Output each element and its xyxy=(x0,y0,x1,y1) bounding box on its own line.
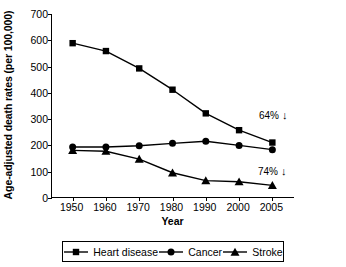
line-chart: Age-adjusted death rates (per 100,000) 0… xyxy=(0,0,346,267)
series-heart-disease xyxy=(69,40,275,146)
y-tick-mark xyxy=(48,67,52,68)
arrow-down-icon: ↓ xyxy=(279,109,288,121)
legend-label: Cancer xyxy=(186,246,222,258)
circle-marker-icon xyxy=(169,140,176,147)
y-tick-label: 400 xyxy=(14,88,48,98)
y-tick-label: 200 xyxy=(14,140,48,150)
legend-entry-stroke[interactable]: Stroke xyxy=(222,246,282,258)
y-tick-mark xyxy=(48,172,52,173)
legend-entry-heart-disease[interactable]: Heart disease xyxy=(63,246,158,258)
y-tick-mark xyxy=(48,198,52,199)
circle-marker-icon xyxy=(236,142,243,149)
arrow-down-icon: ↓ xyxy=(278,165,287,177)
square-marker-icon xyxy=(63,246,89,258)
square-marker-icon xyxy=(73,248,79,254)
triangle-marker-icon xyxy=(168,168,177,176)
y-tick-mark xyxy=(48,40,52,41)
y-tick-label: 100 xyxy=(14,167,48,177)
series-line xyxy=(73,150,273,185)
legend-label: Stroke xyxy=(250,246,282,258)
y-axis-tick-labels: 0100200300400500600700 xyxy=(14,14,48,198)
circle-marker-icon xyxy=(158,246,184,258)
legend-label: Heart disease xyxy=(91,246,158,258)
x-tick-label: 2005 xyxy=(251,201,291,213)
y-tick-label: 500 xyxy=(14,62,48,72)
square-marker-icon xyxy=(203,110,209,116)
y-tick-label: 700 xyxy=(14,9,48,19)
y-tick-mark xyxy=(48,14,52,15)
y-tick-label: 300 xyxy=(14,114,48,124)
legend-entry-cancer[interactable]: Cancer xyxy=(158,246,222,258)
y-axis-title-text: Age-adjusted death rates (per 100,000) xyxy=(2,11,14,200)
chart-legend: Heart diseaseCancerStroke xyxy=(62,241,284,262)
y-tick-mark xyxy=(48,145,52,146)
square-marker-icon xyxy=(236,127,242,133)
y-tick-label: 600 xyxy=(14,35,48,45)
circle-marker-icon xyxy=(202,138,209,145)
square-marker-icon xyxy=(169,87,175,93)
annotation-text: 64% xyxy=(259,110,279,121)
circle-marker-icon xyxy=(269,146,276,153)
annotation-text: 74% xyxy=(258,166,278,177)
x-axis-title: Year xyxy=(51,215,294,227)
triangle-marker-icon xyxy=(222,246,248,258)
circle-marker-icon xyxy=(168,248,175,255)
y-tick-label: 0 xyxy=(14,193,48,203)
circle-marker-icon xyxy=(136,142,143,149)
square-marker-icon xyxy=(103,48,109,54)
y-tick-mark xyxy=(48,119,52,120)
square-marker-icon xyxy=(69,40,75,46)
square-marker-icon xyxy=(269,139,275,145)
y-tick-mark xyxy=(48,93,52,94)
annotation-74pct: 74%↓ xyxy=(258,166,287,177)
series-stroke xyxy=(68,146,277,189)
square-marker-icon xyxy=(136,65,142,71)
annotation-64pct: 64%↓ xyxy=(259,110,288,121)
